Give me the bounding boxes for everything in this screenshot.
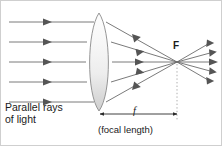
refracted-ray-1 bbox=[106, 22, 177, 62]
ray-arrowhead-icon bbox=[136, 49, 145, 56]
diverging-ray-4 bbox=[177, 62, 210, 71]
ray-arrowhead-icon bbox=[43, 79, 52, 86]
ray-arrowhead-icon bbox=[206, 40, 214, 48]
refracted-ray-5 bbox=[106, 62, 177, 102]
diverging-ray-5 bbox=[177, 62, 208, 80]
converging-lens bbox=[90, 13, 109, 111]
ray-arrowhead-icon bbox=[43, 39, 52, 46]
focal-length-caption: (focal length) bbox=[98, 125, 153, 136]
ray-arrowhead-icon bbox=[135, 59, 144, 66]
diverging-ray-1 bbox=[177, 44, 208, 62]
ray-arrowhead-icon bbox=[209, 49, 217, 57]
diverging-ray-2 bbox=[177, 53, 210, 62]
diverging-rays bbox=[177, 44, 211, 80]
lens-ray-diagram: Parallel rays of light f (focal length) … bbox=[0, 0, 222, 146]
refracted-ray-4 bbox=[111, 62, 177, 82]
ray-arrowhead-icon bbox=[209, 67, 217, 75]
ray-arrowhead-icon bbox=[206, 77, 214, 85]
refracted-ray-2 bbox=[111, 42, 177, 62]
ray-arrowhead-icon bbox=[209, 59, 218, 66]
ray-arrowhead-icon bbox=[43, 19, 52, 26]
focal-point-label: F bbox=[173, 40, 179, 51]
ray-arrowhead-icon bbox=[136, 68, 145, 75]
parallel-rays-label: Parallel rays of light bbox=[5, 102, 63, 126]
ray-arrowhead-icon bbox=[43, 59, 52, 66]
incoming-ray-arrowheads bbox=[43, 19, 52, 106]
focal-length-symbol-label: f bbox=[133, 105, 136, 117]
